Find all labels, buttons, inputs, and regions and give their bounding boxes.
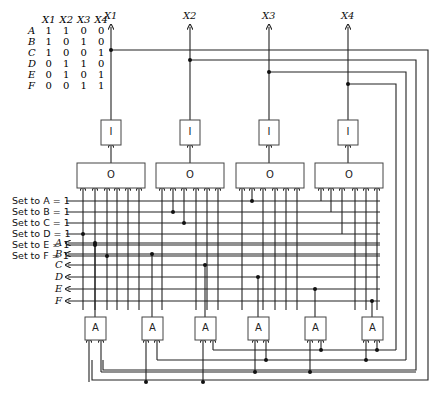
output-label-x2: X2 [183,10,196,21]
or-gate-2: O [156,169,224,180]
header-x3: X3 [75,14,92,25]
set-input-a: Set to A = 1 [12,195,70,206]
table-row: A 1 1 0 0 [26,25,110,36]
and-gate-4: A [248,322,269,333]
state-output-a: A [55,237,62,248]
and-gate-2: A [142,322,163,333]
state-output-e: E [55,283,62,294]
table-row: F 0 0 1 1 [26,80,110,91]
and-gate-5: A [305,322,326,333]
state-output-c: C [55,259,63,270]
table-row: D 0 1 1 0 [26,58,110,69]
or-gate-4: O [315,169,383,180]
output-label-x1: X1 [104,10,117,21]
inverter-gate-3: I [259,126,279,137]
or-gate-3: O [236,169,304,180]
table-row: B 1 0 1 0 [26,36,110,47]
set-input-c: Set to C = 1 [12,217,70,228]
inverter-gate-1: I [101,126,121,137]
truth-table: X1 X2 X3 X4 A 1 1 0 0 B 1 0 1 0 C 1 0 0 … [26,14,110,91]
output-label-x4: X4 [341,10,354,21]
output-label-x3: X3 [262,10,275,21]
state-output-b: B [55,248,62,259]
header-x1: X1 [40,14,57,25]
state-output-f: F [55,295,62,306]
and-gate-6: A [362,322,383,333]
table-row: E 0 1 0 1 [26,69,110,80]
inverter-gate-2: I [180,126,200,137]
state-output-d: D [55,271,63,282]
or-gate-1: O [77,169,145,180]
inverter-gate-4: I [338,126,358,137]
and-gate-3: A [195,322,216,333]
table-row: C 1 0 0 1 [26,47,110,58]
set-input-b: Set to B = 1 [12,206,70,217]
header-x2: X2 [58,14,75,25]
and-gate-1: A [85,322,106,333]
